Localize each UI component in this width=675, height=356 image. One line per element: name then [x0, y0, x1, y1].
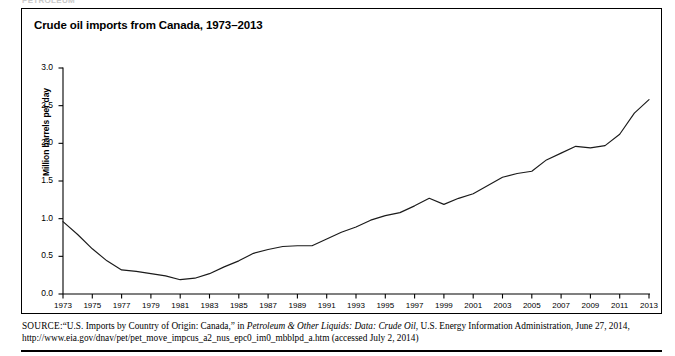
- x-axis-tick-label: 2001: [458, 301, 488, 310]
- x-axis-tick-label: 1979: [136, 301, 166, 310]
- axes: [59, 68, 651, 299]
- y-axis-tick-label: 0.5: [31, 250, 53, 260]
- y-axis-tick-label: 1.5: [31, 175, 53, 185]
- x-axis-tick-label: 1975: [77, 301, 107, 310]
- source-publication-title: Petroleum & Other Liquids: Data: Crude O…: [247, 321, 416, 331]
- figure-page: PETROLEUM Crude oil imports from Canada,…: [0, 0, 675, 356]
- x-axis-tick-label: 1993: [341, 301, 371, 310]
- x-axis-tick-label: 1995: [370, 301, 400, 310]
- x-axis-tick-label: 2009: [575, 301, 605, 310]
- data-series-line-0: [63, 100, 649, 280]
- y-axis-tick-label: 3.0: [31, 62, 53, 72]
- figure-box: Crude oil imports from Canada, 1973–2013…: [21, 8, 662, 314]
- x-axis-tick-label: 2007: [546, 301, 576, 310]
- x-axis-tick-label: 1977: [107, 301, 137, 310]
- running-head: PETROLEUM: [22, 0, 75, 5]
- y-axis-tick-label: 0.0: [31, 288, 53, 298]
- x-axis-tick-label: 1999: [429, 301, 459, 310]
- x-axis-tick-label: 1997: [400, 301, 430, 310]
- y-axis-tick-label: 1.0: [31, 213, 53, 223]
- x-axis-tick-label: 2013: [634, 301, 664, 310]
- x-axis-tick-label: 1973: [48, 301, 78, 310]
- y-axis-title: Million barrels per day: [41, 72, 51, 192]
- x-axis-tick-label: 1991: [312, 301, 342, 310]
- source-note: SOURCE:“U.S. Imports by Country of Origi…: [22, 320, 662, 344]
- x-axis-tick-label: 2005: [517, 301, 547, 310]
- x-axis-tick-label: 1989: [282, 301, 312, 310]
- line-chart-svg: [22, 9, 663, 315]
- x-axis-tick-label: 1981: [165, 301, 195, 310]
- x-axis-tick-label: 2003: [488, 301, 518, 310]
- source-text-part-1: “U.S. Imports by Country of Origin: Cana…: [63, 321, 247, 331]
- y-axis-tick-label: 2.5: [31, 100, 53, 110]
- x-axis-tick-label: 2011: [605, 301, 635, 310]
- x-axis-tick-label: 1983: [195, 301, 225, 310]
- y-axis-tick-label: 2.0: [31, 137, 53, 147]
- source-label: SOURCE:: [22, 321, 63, 331]
- chart-plot-area: Million barrels per day 0.00.51.01.52.02…: [22, 9, 663, 315]
- x-axis-tick-label: 1987: [253, 301, 283, 310]
- x-axis-tick-label: 1985: [224, 301, 254, 310]
- bottom-rule: [21, 350, 662, 352]
